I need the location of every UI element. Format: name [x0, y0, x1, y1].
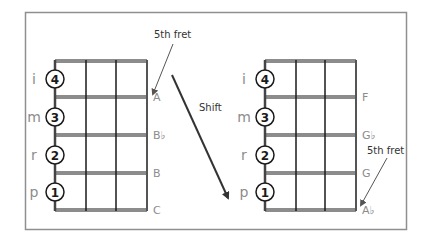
left-note-b: B [153, 167, 161, 180]
left-finger-2: 2 [46, 146, 64, 164]
left-hand-label-m: m [27, 109, 41, 125]
left-note-b-flat: B♭ [153, 129, 166, 142]
right-fret-annotation: 5th fret [367, 145, 404, 156]
right-fretboard [265, 60, 356, 211]
shift-label: Shift [199, 102, 222, 113]
finger-number: 4 [51, 73, 59, 87]
finger-number: 1 [51, 186, 59, 200]
left-finger-4: 4 [46, 70, 64, 88]
right-annotation-arrow [361, 158, 387, 205]
right-finger-3: 3 [256, 108, 274, 126]
finger-number: 2 [51, 149, 59, 163]
right-hand-label-m: m [237, 109, 251, 125]
finger-number: 3 [51, 111, 59, 125]
left-fret-lines [55, 60, 147, 211]
left-annotation-arrow [153, 44, 173, 94]
right-note-g: G [362, 167, 371, 180]
right-note-f: F [362, 91, 368, 104]
right-finger-4: 4 [256, 70, 274, 88]
right-fret-lines [265, 60, 356, 211]
finger-number: 3 [261, 111, 269, 125]
right-note-a-flat: A♭ [362, 204, 375, 217]
finger-number: 2 [261, 149, 269, 163]
right-hand-label-p: p [240, 184, 249, 200]
left-finger-1: 1 [46, 183, 64, 201]
left-finger-3: 3 [46, 108, 64, 126]
left-hand-label-r: r [31, 147, 37, 163]
right-note-g-flat: G♭ [362, 129, 376, 142]
outer-frame [26, 13, 407, 230]
right-finger-2: 2 [256, 146, 274, 164]
finger-number: 4 [261, 73, 269, 87]
right-hand-label-r: r [241, 147, 247, 163]
left-note-c: C [153, 204, 161, 217]
left-note-a: A [153, 91, 161, 104]
left-hand-label-p: p [30, 184, 39, 200]
shift-arrow [172, 75, 228, 198]
left-fret-annotation: 5th fret [154, 29, 191, 40]
right-finger-1: 1 [256, 183, 274, 201]
left-fretboard [55, 60, 147, 211]
right-hand-label-i: i [242, 71, 246, 87]
left-hand-label-i: i [32, 71, 36, 87]
diagram-canvas: 4 3 2 1 i m r p A B♭ B C 5th fret Shift [0, 0, 428, 235]
finger-number: 1 [261, 186, 269, 200]
